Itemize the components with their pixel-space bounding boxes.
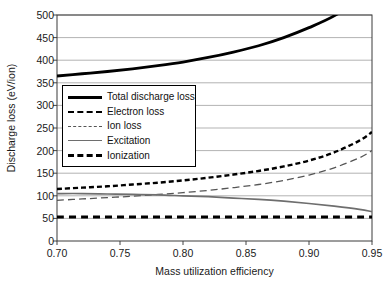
- legend-swatch-total-discharge-loss: [68, 91, 102, 103]
- legend-swatch-electron-loss: [68, 106, 102, 118]
- legend-item-total-discharge-loss: Total discharge loss: [68, 90, 190, 105]
- x-tick-label: 0.95: [350, 247, 391, 259]
- legend-item-electron-loss: Electron loss: [68, 105, 190, 120]
- chart-legend: Total discharge loss Electron loss Ion l…: [62, 85, 196, 167]
- y-axis-title: Discharge loss (eV/ion): [3, 0, 19, 243]
- x-tick-marks: [57, 241, 372, 245]
- legend-item-ion-loss: Ion loss: [68, 119, 190, 134]
- legend-label-ionization: Ionization: [107, 150, 150, 162]
- x-tick-label: 0.75: [98, 247, 142, 259]
- x-tick-label: 0.70: [35, 247, 79, 259]
- legend-swatch-ion-loss: [68, 120, 102, 132]
- legend-label-excitation: Excitation: [107, 135, 150, 147]
- legend-swatch-ionization: [68, 150, 102, 162]
- legend-item-excitation: Excitation: [68, 134, 190, 149]
- x-tick-label: 0.85: [224, 247, 268, 259]
- x-axis-title: Mass utilization efficiency: [57, 265, 372, 277]
- x-tick-label: 0.90: [287, 247, 331, 259]
- x-tick-label: 0.80: [161, 247, 205, 259]
- legend-label-total-discharge-loss: Total discharge loss: [107, 91, 195, 103]
- chart-figure: 050100150200250300350400450500 0.700.750…: [0, 0, 391, 290]
- legend-item-ionization: Ionization: [68, 148, 190, 163]
- legend-label-electron-loss: Electron loss: [107, 106, 164, 118]
- legend-swatch-excitation: [68, 135, 102, 147]
- legend-label-ion-loss: Ion loss: [107, 120, 141, 132]
